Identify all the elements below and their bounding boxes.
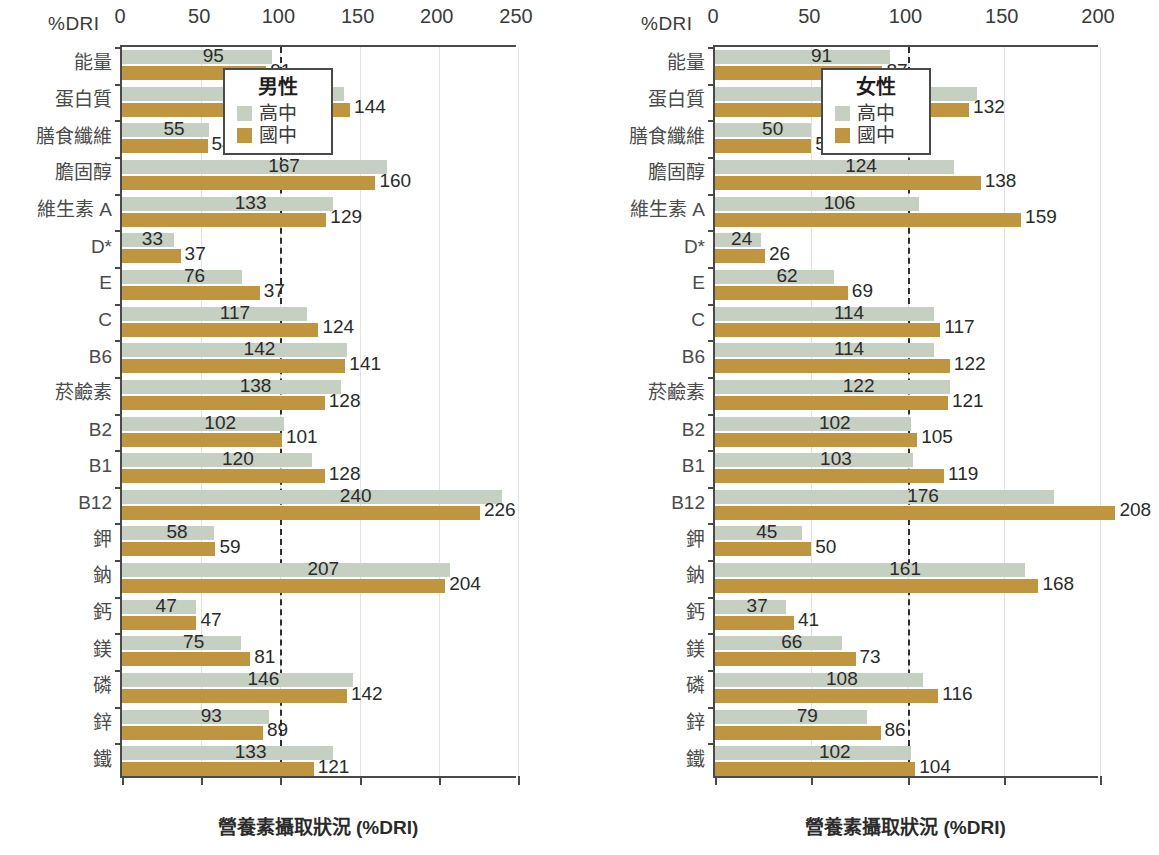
- bar-value-label: 208: [1119, 500, 1151, 519]
- reference-line-100: [908, 47, 910, 776]
- bar-value-label: 91: [811, 46, 832, 65]
- legend: 男性高中國中: [223, 68, 333, 155]
- bar-junior-high: [122, 469, 325, 483]
- plot-area: [713, 45, 1098, 778]
- y-axis-tick: [115, 194, 122, 196]
- bar-value-label: 54: [212, 134, 233, 153]
- legend-item[interactable]: 高中: [237, 104, 319, 123]
- bar-high-school: [715, 123, 811, 137]
- y-axis-tick: [708, 340, 715, 342]
- y-axis-tick: [708, 487, 715, 489]
- y-axis-tick: [115, 267, 122, 269]
- legend-label: 高中: [857, 104, 895, 123]
- dri-axis-label: %DRI: [48, 13, 100, 35]
- y-axis-tick: [708, 633, 715, 635]
- x-axis-tick: [715, 776, 717, 785]
- legend-swatch-icon: [835, 128, 850, 143]
- bar-high-school: [122, 160, 387, 174]
- bar-value-label: 86: [885, 720, 906, 739]
- y-axis-tick: [708, 47, 715, 49]
- bar-high-school: [715, 233, 761, 247]
- bar-value-label: 89: [267, 720, 288, 739]
- bar-junior-high: [122, 176, 375, 190]
- bar-high-school: [122, 673, 353, 687]
- category-label: B2: [485, 420, 705, 439]
- bar-value-label: 114: [834, 339, 864, 358]
- y-axis-tick: [708, 707, 715, 709]
- reference-line-100: [280, 47, 282, 776]
- legend-item[interactable]: 國中: [237, 126, 319, 145]
- category-label: 能量: [485, 53, 705, 72]
- bar-junior-high: [122, 726, 263, 740]
- x-tick-label: 50: [188, 5, 210, 28]
- category-label: E: [0, 273, 112, 292]
- bar-high-school: [122, 123, 209, 137]
- bar-value-label: 128: [329, 391, 361, 410]
- plot-area: [120, 45, 516, 778]
- bar-value-label: 58: [166, 522, 187, 541]
- bar-high-school: [715, 87, 977, 101]
- y-axis-tick: [115, 340, 122, 342]
- bar-value-label: 161: [889, 559, 921, 578]
- gridline: [811, 47, 812, 776]
- bar-value-label: 108: [826, 669, 858, 688]
- bar-value-label: 117: [944, 317, 974, 336]
- category-label: 鎂: [0, 640, 112, 659]
- bar-high-school: [122, 710, 269, 724]
- bar-value-label: 37: [185, 244, 206, 263]
- x-axis-tick: [122, 776, 124, 785]
- y-axis-tick: [708, 120, 715, 122]
- bar-value-label: 121: [318, 757, 350, 776]
- bar-high-school: [715, 636, 842, 650]
- dri-axis-label: %DRI: [641, 13, 693, 35]
- bar-junior-high: [122, 652, 250, 666]
- y-axis-tick: [708, 523, 715, 525]
- bar-value-label: 128: [329, 464, 361, 483]
- category-label: 鉀: [485, 530, 705, 549]
- bar-junior-high: [122, 103, 350, 117]
- category-label: 磷: [485, 676, 705, 695]
- bar-high-school: [715, 417, 911, 431]
- category-label: 膽固醇: [485, 163, 705, 182]
- y-axis-tick: [708, 84, 715, 86]
- y-axis-tick: [115, 157, 122, 159]
- bar-high-school: [122, 87, 344, 101]
- bar-value-label: 37: [264, 281, 285, 300]
- bar-junior-high: [122, 506, 480, 520]
- bar-value-label: 142: [244, 339, 276, 358]
- bar-value-label: 91: [270, 61, 291, 80]
- x-axis-tick: [360, 776, 362, 785]
- gridline: [201, 47, 202, 776]
- bar-high-school: [715, 343, 934, 357]
- x-axis-title: 營養素攝取狀況 (%DRI): [218, 812, 419, 839]
- y-axis-tick: [115, 414, 122, 416]
- bar-value-label: 50: [815, 537, 836, 556]
- bar-high-school: [715, 563, 1025, 577]
- y-axis-tick: [115, 707, 122, 709]
- legend-title: 男性: [237, 76, 319, 99]
- bar-junior-high: [715, 176, 981, 190]
- x-axis-tick: [518, 776, 520, 785]
- category-label: 鈣: [485, 603, 705, 622]
- y-axis-tick: [708, 450, 715, 452]
- bar-value-label: 62: [776, 266, 797, 285]
- x-axis-tick: [280, 776, 282, 785]
- bar-value-label: 55: [163, 119, 184, 138]
- bar-value-label: 167: [268, 156, 300, 175]
- bar-value-label: 132: [973, 97, 1005, 116]
- bar-value-label: 50: [762, 119, 783, 138]
- x-axis-tick: [1004, 776, 1006, 785]
- bar-high-school: [715, 453, 913, 467]
- legend-item[interactable]: 國中: [835, 126, 917, 145]
- y-axis-tick: [708, 597, 715, 599]
- bar-value-label: 138: [240, 376, 272, 395]
- bar-junior-high: [715, 726, 881, 740]
- category-label: B6: [485, 347, 705, 366]
- x-tick-label: 200: [420, 5, 453, 28]
- y-axis-tick: [115, 230, 122, 232]
- y-axis-tick: [115, 523, 122, 525]
- bar-high-school: [122, 270, 242, 284]
- category-label: C: [0, 310, 112, 329]
- bar-value-label: 136: [859, 83, 891, 102]
- legend-item[interactable]: 高中: [835, 104, 917, 123]
